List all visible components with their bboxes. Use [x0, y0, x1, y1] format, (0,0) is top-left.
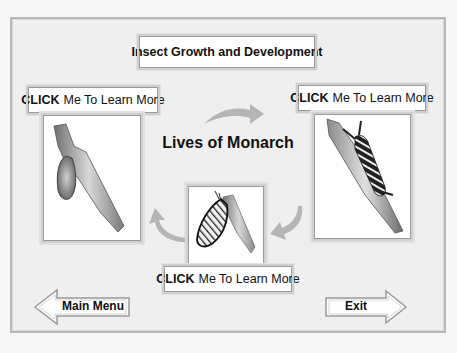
caterpillar-image[interactable] [314, 114, 411, 239]
learn-more-chrysalis-button[interactable]: CLICKMe To Learn More [28, 87, 158, 113]
caterpillar-on-branch-icon [315, 115, 410, 238]
chrysalis-image[interactable] [43, 115, 141, 241]
learn-more-caterpillar-button[interactable]: CLICKMe To Learn More [298, 85, 426, 111]
main-menu-button[interactable]: Main Menu [33, 288, 131, 326]
curved-arrow-right-icon [200, 100, 270, 130]
page-title: Insect Growth and Development [139, 36, 315, 68]
butterfly-on-branch-icon [189, 187, 263, 263]
chrysalis-on-branch-icon [44, 116, 140, 240]
main-menu-label: Main Menu [57, 299, 129, 313]
learn-more-butterfly-button[interactable]: CLICKMe To Learn More [164, 266, 292, 292]
curved-arrow-down-left-icon [268, 204, 308, 244]
exit-label: Exit [326, 299, 386, 313]
butterfly-image[interactable] [188, 186, 264, 264]
main-heading: Lives of Monarch [160, 134, 296, 152]
curved-arrow-up-left-icon [145, 206, 187, 246]
exit-button[interactable]: Exit [324, 289, 408, 325]
